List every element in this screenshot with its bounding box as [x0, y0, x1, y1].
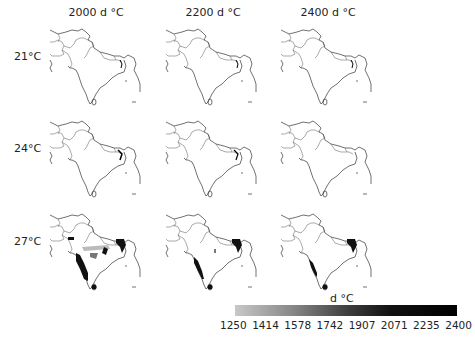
- colorbar-title: d °C: [330, 292, 354, 305]
- map-24c-2000: [48, 120, 144, 200]
- column-title-2400: 2400 d °C: [278, 6, 378, 19]
- colorbar-tick: 2400: [445, 319, 472, 331]
- map-24c-2200: [164, 120, 260, 200]
- map-24c-2400: [279, 120, 375, 200]
- row-label-21: 21°C: [14, 50, 41, 63]
- map-21c-2400: [279, 28, 375, 108]
- map-21c-2000: [48, 28, 144, 108]
- column-title-2000: 2000 d °C: [46, 6, 146, 19]
- map-27c-2400: [279, 213, 375, 293]
- colorbar: [235, 305, 457, 316]
- colorbar-tick: 1907: [349, 319, 376, 331]
- colorbar-tick: 1742: [317, 319, 344, 331]
- row-label-24: 24°C: [14, 142, 41, 155]
- colorbar-tick: 1578: [284, 319, 311, 331]
- colorbar-tick: 2235: [413, 319, 440, 331]
- colorbar-tick: 2071: [381, 319, 408, 331]
- map-27c-2200: [164, 213, 260, 293]
- row-label-27: 27°C: [14, 235, 41, 248]
- colorbar-tick: 1414: [252, 319, 279, 331]
- colorbar-ticks: 1250 1414 1578 1742 1907 2071 2235 2400: [220, 319, 472, 331]
- colorbar-tick: 1250: [220, 319, 247, 331]
- map-21c-2200: [164, 28, 260, 108]
- map-27c-2000: [48, 213, 144, 293]
- column-title-2200: 2200 d °C: [163, 6, 263, 19]
